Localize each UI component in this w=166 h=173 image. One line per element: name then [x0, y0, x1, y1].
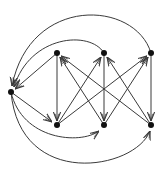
edge-B2-to-T1	[60, 57, 104, 125]
edge-L-to-B3	[11, 92, 150, 163]
edge-T2-to-L	[14, 40, 104, 87]
edge-B3-to-T1	[61, 56, 151, 125]
node-T2	[101, 50, 107, 56]
directed-graph	[0, 0, 166, 173]
edge-B1-to-T3	[57, 56, 147, 125]
edge-B3-to-T2	[107, 57, 151, 125]
edge-B2-to-T3	[104, 57, 148, 125]
node-T1	[54, 50, 60, 56]
edge-B1-to-T2	[57, 57, 101, 125]
edge-T3-to-L	[12, 15, 151, 86]
edge-L-to-B1	[11, 92, 52, 122]
node-B1	[54, 122, 60, 128]
node-L	[8, 89, 14, 95]
node-B3	[148, 122, 154, 128]
edges	[11, 15, 151, 163]
edge-L-to-B2	[11, 92, 99, 138]
node-B2	[101, 122, 107, 128]
node-T3	[148, 50, 154, 56]
